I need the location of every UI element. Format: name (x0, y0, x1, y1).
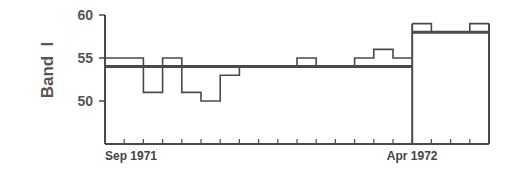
x-tick-label: Apr 1972 (387, 149, 438, 163)
y-tick-label: 50 (77, 93, 93, 109)
x-tick-label: Sep 1971 (105, 149, 157, 163)
axes (99, 15, 489, 144)
series-lines (105, 24, 489, 144)
axis-labels: 505560Sep 1971Apr 1972 (77, 7, 437, 163)
y-tick-label: 60 (77, 7, 93, 23)
step-chart: 505560Sep 1971Apr 1972 (0, 0, 515, 176)
observed-step-line-period1 (105, 49, 412, 101)
y-tick-label: 55 (77, 50, 93, 66)
